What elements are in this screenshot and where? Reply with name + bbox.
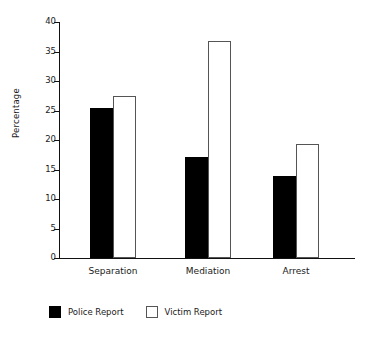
y-tick-label: 40 [45, 16, 56, 27]
bar-group-arrest [273, 22, 319, 258]
y-tick-label: 20 [45, 134, 56, 145]
legend-item-police-report[interactable]: Police Report [49, 306, 124, 318]
legend-item-victim-report[interactable]: Victim Report [146, 306, 223, 318]
legend-label: Police Report [68, 307, 124, 317]
bar-mediation-victim-report [208, 41, 231, 258]
bar-arrest-victim-report [296, 144, 319, 258]
y-axis-title: Percentage [11, 68, 21, 158]
y-tick-label: 25 [45, 105, 56, 116]
y-tick-label: 0 [51, 252, 56, 263]
legend-label: Victim Report [165, 307, 223, 317]
bar-chart: Percentage 0510152025303540 SeparationMe… [0, 0, 373, 339]
x-axis-label-arrest: Arrest [236, 266, 356, 276]
plot-area: 0510152025303540 SeparationMediationArre… [59, 22, 355, 258]
y-tick-label: 10 [45, 193, 56, 204]
bar-group-separation [90, 22, 136, 258]
x-axis-line [59, 258, 355, 259]
y-tick-label: 30 [45, 75, 56, 86]
y-tick-label: 15 [45, 164, 56, 175]
chart-legend: Police ReportVictim Report [49, 306, 222, 318]
y-tick-label: 35 [45, 46, 56, 57]
filled-square-icon [49, 306, 61, 318]
y-tick-label: 5 [51, 223, 56, 234]
bar-separation-victim-report [113, 96, 136, 258]
bar-mediation-police-report [185, 157, 208, 258]
bar-arrest-police-report [273, 176, 296, 258]
bar-separation-police-report [90, 108, 113, 258]
outlined-square-icon [146, 306, 158, 318]
bar-group-mediation [185, 22, 231, 258]
y-axis-line [59, 22, 60, 258]
